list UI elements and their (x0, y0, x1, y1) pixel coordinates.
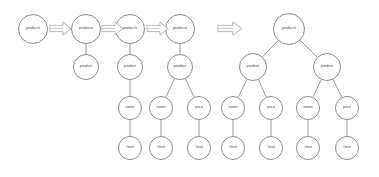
transition-arrow-1-icon (50, 22, 71, 35)
tree-node-name[interactable]: name (221, 96, 245, 120)
tree-node-product[interactable]: product (167, 54, 193, 80)
tree-node-text[interactable]: #text (259, 136, 283, 160)
tree-node-name[interactable]: name (149, 96, 173, 120)
tree-node-product[interactable]: product (73, 54, 99, 80)
tree-node-label: products (26, 27, 40, 31)
tree-node-label: price (267, 106, 275, 110)
tree-node-products[interactable]: products (18, 14, 48, 44)
tree-node-label: name (303, 106, 312, 110)
tree-node-price[interactable]: price (187, 96, 211, 120)
tree-node-products[interactable]: products (71, 14, 101, 44)
tree-node-label: name (125, 106, 134, 110)
tree-node-label: #text (229, 146, 237, 150)
tree-edge (185, 79, 193, 97)
tree-node-label: product (80, 65, 92, 69)
tree-node-label: product (321, 65, 333, 69)
tree-node-label: products (282, 27, 296, 31)
tree-node-label: #text (195, 146, 203, 150)
transition-arrow-final-icon (218, 22, 242, 35)
tree-edge (300, 40, 317, 57)
transition-arrow-3-icon (147, 22, 168, 35)
tree-node-price[interactable]: price (335, 96, 359, 120)
tree-node-label: product (174, 65, 186, 69)
tree-node-label: #text (267, 146, 275, 150)
tree-node-label: product (124, 65, 136, 69)
tree-edge (259, 80, 267, 97)
tree-node-label: products (79, 27, 93, 31)
tree-node-label: products (123, 27, 137, 31)
tree-node-text[interactable]: #text (187, 136, 211, 160)
tree-node-text[interactable]: #text (335, 136, 359, 160)
tree-edge (333, 80, 342, 98)
tree-edge (166, 79, 174, 97)
tree-node-label: name (228, 106, 237, 110)
tree-node-label: name (156, 106, 165, 110)
transition-arrow-2-icon (102, 22, 123, 35)
tree-edge (263, 41, 278, 57)
tree-node-text[interactable]: #text (221, 136, 245, 160)
tree-node-products[interactable]: products (273, 13, 305, 45)
tree-node-text[interactable]: #text (118, 136, 142, 160)
tree-edge (238, 80, 247, 98)
tree-node-price[interactable]: price (259, 96, 283, 120)
tree-node-products[interactable]: products (165, 14, 195, 44)
tree-node-label: #text (304, 146, 312, 150)
tree-node-text[interactable]: #text (296, 136, 320, 160)
tree-node-name[interactable]: name (296, 96, 320, 120)
tree-node-label: #text (126, 146, 134, 150)
tree-node-product[interactable]: product (239, 53, 267, 81)
tree-node-product[interactable]: product (117, 54, 143, 80)
tree-node-label: #text (157, 146, 165, 150)
tree-node-product[interactable]: product (313, 53, 341, 81)
tree-edge (313, 80, 321, 97)
tree-node-label: #text (343, 146, 351, 150)
tree-node-label: product (247, 65, 259, 69)
tree-node-label: products (173, 27, 187, 31)
tree-node-text[interactable]: #text (149, 136, 173, 160)
tree-node-label: price (343, 106, 351, 110)
tree-node-label: price (195, 106, 203, 110)
diagram-canvas: productsproductsproductproductsproductna… (0, 0, 379, 177)
tree-node-name[interactable]: name (118, 96, 142, 120)
